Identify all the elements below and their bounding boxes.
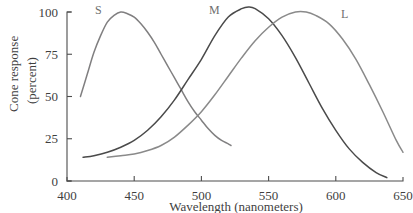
x-axis-ticks	[134, 176, 336, 181]
x-axis-line	[67, 177, 403, 181]
y-axis-ticks	[67, 12, 72, 181]
y-tick-label: 50	[45, 89, 58, 104]
chart-canvas: 0255075100 400450500550600650 Cone respo…	[0, 0, 413, 213]
y-tick-label: 75	[45, 47, 58, 62]
y-tick-label: 0	[52, 174, 59, 189]
y-tick-label: 25	[45, 131, 58, 146]
series-labels: SML	[95, 3, 348, 21]
cone-response-chart: 0255075100 400450500550600650 Cone respo…	[0, 0, 413, 213]
x-axis-title: Wavelength (nanometers)	[169, 199, 303, 213]
y-axis: 0255075100	[39, 5, 73, 189]
series-label-l: L	[341, 7, 348, 21]
y-axis-title: Cone response (percent)	[6, 36, 39, 112]
curve-l	[107, 11, 403, 157]
y-tick-label: 100	[39, 5, 59, 20]
y-axis-title-line2: (percent)	[24, 57, 39, 104]
x-tick-label: 650	[393, 188, 413, 203]
x-tick-label: 450	[124, 188, 144, 203]
y-axis-tick-labels: 0255075100	[39, 5, 59, 189]
series-label-s: S	[95, 3, 102, 17]
curve-m	[83, 7, 387, 178]
data-curves	[80, 7, 403, 178]
x-tick-label: 400	[57, 188, 77, 203]
curve-s	[80, 12, 231, 146]
x-tick-label: 600	[326, 188, 346, 203]
y-axis-title-line1: Cone response	[6, 36, 21, 112]
series-label-m: M	[209, 3, 220, 17]
